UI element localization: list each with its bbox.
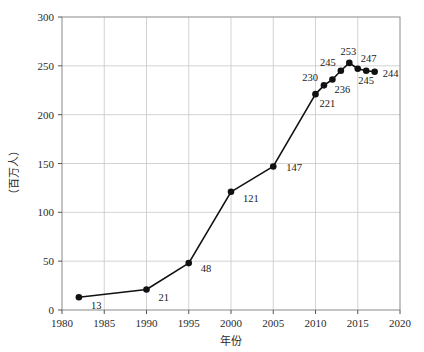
- data-point-marker: [329, 76, 336, 83]
- data-point-marker: [312, 91, 319, 98]
- data-point-marker: [143, 286, 150, 293]
- line-chart: 050100150200250300 198019851990199520002…: [0, 0, 424, 352]
- chart-canvas: 050100150200250300 198019851990199520002…: [0, 0, 424, 352]
- x-axis-title: 年份: [220, 334, 242, 347]
- y-tick-label: 0: [49, 304, 55, 316]
- data-point-marker: [228, 189, 235, 196]
- x-tick-label: 1995: [178, 317, 201, 329]
- x-tick-label: 2000: [220, 317, 243, 329]
- data-point-label: 21: [159, 292, 170, 303]
- x-tick-label: 1985: [93, 317, 116, 329]
- y-tick-label: 50: [43, 255, 55, 267]
- data-point-marker: [338, 67, 345, 74]
- y-axis-title: （百万人）: [8, 145, 20, 200]
- data-point-marker: [346, 60, 353, 67]
- data-point-marker: [185, 260, 192, 267]
- x-tick-label: 2005: [262, 317, 285, 329]
- y-tick-label: 150: [38, 158, 55, 170]
- data-point-marker: [270, 163, 277, 170]
- y-tick-label: 200: [38, 109, 55, 121]
- data-point-label: 13: [91, 300, 102, 311]
- data-point-label: 245: [320, 57, 336, 68]
- data-point-label: 121: [243, 193, 259, 204]
- y-tick-label: 300: [38, 11, 55, 23]
- data-point-label: 245: [358, 75, 374, 86]
- x-tick-label: 2010: [305, 317, 328, 329]
- data-point-label: 230: [302, 72, 318, 83]
- data-point-label: 244: [383, 68, 400, 79]
- x-tick-label: 1980: [51, 317, 74, 329]
- data-point-marker: [354, 65, 361, 72]
- data-point-marker: [321, 82, 328, 89]
- data-point-label: 236: [334, 84, 350, 95]
- data-point-label: 221: [320, 98, 336, 109]
- x-tick-label: 2020: [389, 317, 412, 329]
- data-point-marker: [363, 67, 370, 74]
- data-point-marker: [76, 294, 83, 301]
- data-point-label: 147: [286, 162, 302, 173]
- data-point-label: 48: [201, 263, 212, 274]
- y-tick-label: 100: [38, 206, 55, 218]
- data-point-label: 253: [340, 46, 356, 57]
- y-tick-label: 250: [38, 60, 55, 72]
- x-axis-tick-labels: 198019851990199520002005201020152020: [51, 317, 412, 329]
- data-point-label: 247: [361, 53, 377, 64]
- x-tick-label: 1990: [136, 317, 159, 329]
- x-tick-label: 2015: [347, 317, 370, 329]
